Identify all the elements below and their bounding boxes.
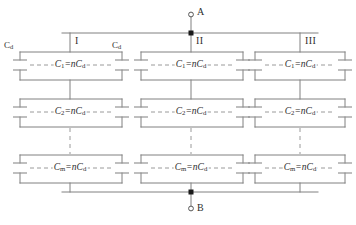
eq-rhs-sub: d — [312, 62, 315, 69]
circuit-diagram: A B I II III Cd Cd C1=nCd C2=nCd Cm=nCd … — [0, 0, 356, 225]
eq-rhs-sub: d — [82, 62, 85, 69]
column-label-I: I — [75, 36, 79, 46]
equation-col-II-row2: C2=nCd — [175, 107, 208, 117]
eq-rhs: nC — [193, 162, 204, 172]
eq-index: 1 — [291, 62, 294, 69]
eq-rhs-sub: d — [204, 165, 207, 172]
equation-col-I-row3: Cm=nCd — [53, 163, 88, 173]
equation-col-II-row3: Cm=nCd — [174, 163, 209, 173]
eq-rhs: nC — [192, 106, 203, 116]
column-label-II: II — [196, 36, 203, 46]
eq-rhs-sub: d — [82, 109, 85, 116]
eq-rhs: nC — [301, 59, 312, 69]
eq-rhs: nC — [192, 59, 203, 69]
equation-col-I-row1: C1=nCd — [54, 60, 87, 70]
equation-col-II-row1: C1=nCd — [175, 60, 208, 70]
equation-col-III-row1: C1=nCd — [284, 60, 317, 70]
eq-index: 1 — [61, 62, 64, 69]
terminal-a-label: A — [197, 7, 204, 17]
eq-rhs-sub: d — [203, 62, 206, 69]
terminal-b-open-circle-icon — [189, 206, 194, 211]
equation-col-III-row3: Cm=nCd — [283, 163, 318, 173]
terminal-b-junction-node — [189, 190, 194, 195]
eq-rhs: nC — [72, 162, 83, 172]
cd-label-left: Cd — [4, 41, 13, 51]
eq-index: 1 — [182, 62, 185, 69]
eq-index: m — [181, 165, 186, 172]
eq-rhs: nC — [71, 106, 82, 116]
column-label-III: III — [305, 36, 316, 46]
eq-rhs: nC — [301, 106, 312, 116]
eq-rhs-sub: d — [203, 109, 206, 116]
eq-index: m — [60, 165, 65, 172]
terminal-a-junction-node — [189, 31, 194, 36]
cd-left-subscript: d — [10, 43, 13, 50]
cd-right-subscript: d — [118, 43, 121, 50]
equation-col-III-row2: C2=nCd — [284, 107, 317, 117]
cd-label-right: Cd — [112, 41, 121, 51]
eq-rhs: nC — [302, 162, 313, 172]
eq-index: 2 — [61, 109, 64, 116]
eq-index: m — [290, 165, 295, 172]
eq-index: 2 — [182, 109, 185, 116]
terminal-b-label: B — [197, 203, 204, 213]
eq-rhs: nC — [71, 59, 82, 69]
eq-rhs-sub: d — [83, 165, 86, 172]
eq-rhs-sub: d — [313, 165, 316, 172]
eq-index: 2 — [291, 109, 294, 116]
terminal-a-open-circle-icon — [189, 12, 194, 17]
equation-col-I-row2: C2=nCd — [54, 107, 87, 117]
eq-rhs-sub: d — [312, 109, 315, 116]
